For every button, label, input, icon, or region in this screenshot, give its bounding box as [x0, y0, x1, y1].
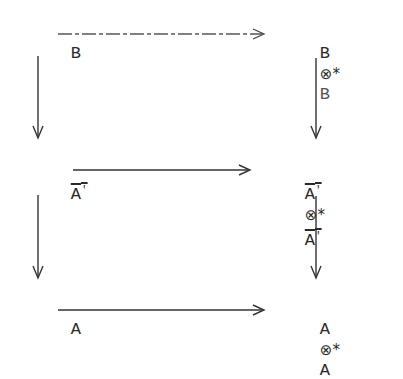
label-a: A [71, 185, 81, 204]
arrow-b-to-bb [58, 29, 264, 39]
label-b-right: B [320, 85, 330, 104]
node-a-prime: A' [30, 160, 88, 225]
tensor-star-icon: ⊗* [305, 206, 325, 224]
prime-mark: ' [315, 230, 322, 242]
node-b-tensor-b: B ⊗* B [279, 24, 340, 125]
label-a-left: A [305, 185, 315, 204]
label-a: A [71, 320, 81, 339]
arrow-a-prime-to-aa-prime [73, 165, 250, 175]
label-b-left: B [320, 44, 330, 63]
node-a-prime-tensor-a-prime: A' ⊗* A' [264, 160, 325, 271]
label-a-left: A [320, 320, 330, 339]
prime-mark: ' [315, 184, 322, 196]
tensor-star-icon: ⊗* [320, 65, 340, 83]
node-a-tensor-a: A ⊗* A [279, 300, 340, 379]
arrow-a-to-aa [58, 305, 264, 315]
label-a-right: A [320, 361, 330, 379]
node-a: A [30, 300, 81, 360]
label-a-right: A [305, 231, 315, 250]
prime-mark: ' [81, 184, 88, 196]
tensor-star-icon: ⊗* [320, 341, 340, 359]
label-b: B [71, 44, 81, 63]
node-b: B [30, 24, 81, 84]
